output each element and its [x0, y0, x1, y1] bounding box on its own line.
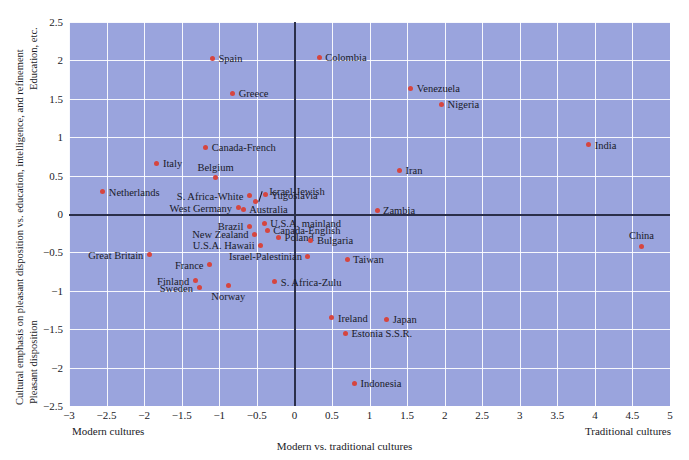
data-point-label: China	[629, 230, 654, 241]
data-point-label: S. Africa-White	[177, 190, 243, 201]
x-tick-label: 4.5	[626, 409, 640, 421]
data-point[interactable]	[241, 207, 246, 212]
data-point-label: S. Africa-Zulu	[281, 276, 342, 287]
x-axis-title: Modern vs. traditional cultures	[0, 440, 689, 452]
data-point[interactable]	[213, 175, 218, 180]
data-point[interactable]	[100, 189, 105, 194]
x-tick-label: 0	[292, 409, 298, 421]
x-tick-label: −2	[138, 409, 150, 421]
data-point[interactable]	[265, 228, 270, 233]
gridline-horizontal	[69, 22, 670, 23]
data-point-label: Canada-French	[212, 142, 276, 153]
data-point[interactable]	[329, 315, 334, 320]
x-tick-label: 3	[517, 409, 523, 421]
data-point[interactable]	[276, 235, 281, 240]
data-point[interactable]	[345, 257, 350, 262]
data-point[interactable]	[203, 145, 208, 150]
x-tick-label: 5	[667, 409, 673, 421]
data-point-label: Spain	[218, 53, 242, 64]
gridline-horizontal	[69, 368, 670, 369]
data-point-label: Indonesia	[360, 377, 401, 388]
data-point[interactable]	[197, 285, 202, 290]
data-point[interactable]	[639, 244, 644, 249]
data-point[interactable]	[384, 317, 389, 322]
y-tick-label: −2.5	[43, 400, 63, 412]
scatter-plot-figure: Cultural emphasis on pleasant dispositio…	[0, 0, 689, 460]
data-point-label: Italy	[163, 158, 182, 169]
data-point[interactable]	[252, 232, 257, 237]
data-point-label: Taiwan	[353, 254, 384, 265]
data-point-label: Venezuela	[417, 83, 460, 94]
data-point[interactable]	[226, 283, 231, 288]
data-point-label: Great Britain	[88, 249, 143, 260]
x-tick-label: −3	[63, 409, 75, 421]
data-point[interactable]	[272, 279, 277, 284]
data-point-label: Iran	[406, 165, 423, 176]
y-tick-label: −2	[51, 362, 63, 374]
x-axis-right-caption: Traditional cultures	[585, 425, 671, 437]
data-point-label: U.S.A. Hawaii	[193, 240, 255, 251]
data-point-label: Sweden	[160, 282, 193, 293]
x-tick-label: 3.5	[550, 409, 564, 421]
gridline-horizontal	[69, 137, 670, 138]
data-point[interactable]	[439, 102, 444, 107]
data-point[interactable]	[375, 208, 380, 213]
x-tick-label: 4	[592, 409, 598, 421]
data-point[interactable]	[236, 205, 241, 210]
data-point[interactable]	[305, 254, 310, 259]
data-point[interactable]	[586, 142, 591, 147]
y-axis-top-caption: Education, etc.	[28, 27, 39, 90]
data-point[interactable]	[210, 56, 215, 61]
data-point-label: Netherlands	[109, 186, 160, 197]
data-point[interactable]	[193, 278, 198, 283]
data-point-label: Bulgaria	[317, 235, 353, 246]
data-point[interactable]	[317, 55, 322, 60]
data-point-label: India	[595, 139, 617, 150]
data-point[interactable]	[352, 381, 357, 386]
y-tick-label: −0.5	[43, 246, 63, 258]
x-tick-label: 2	[442, 409, 448, 421]
data-point-label: Australia	[249, 204, 288, 215]
data-point[interactable]	[154, 161, 159, 166]
y-tick-label: 1	[58, 131, 64, 143]
data-point[interactable]	[147, 252, 152, 257]
y-tick-label: 0.5	[49, 170, 63, 182]
data-point-label: Israel-Palestinian	[229, 251, 302, 262]
data-point[interactable]	[343, 331, 348, 336]
axis-line-y-zero	[69, 214, 670, 216]
x-tick-label: 1	[367, 409, 373, 421]
data-point-label: Norway	[211, 291, 245, 302]
x-tick-label: 1.5	[400, 409, 414, 421]
x-tick-label: −1.5	[172, 409, 192, 421]
y-tick-label: 2	[58, 54, 64, 66]
data-point-label: Belgium	[197, 161, 233, 172]
data-point-label: Colombia	[325, 52, 366, 63]
gridline-horizontal	[69, 176, 670, 177]
y-tick-label: −1.5	[43, 323, 63, 335]
x-axis-left-caption: Modern cultures	[72, 425, 144, 437]
data-point[interactable]	[258, 243, 263, 248]
y-tick-label: −1	[51, 285, 63, 297]
data-point-label: West Germany	[170, 202, 232, 213]
x-tick-label: −1	[213, 409, 225, 421]
y-tick-label: 1.5	[49, 93, 63, 105]
y-axis-title: Cultural emphasis on pleasant dispositio…	[14, 49, 25, 405]
data-point-label: Yugosiavia	[271, 189, 318, 200]
data-point[interactable]	[262, 221, 267, 226]
data-point-label: Zambia	[383, 205, 415, 216]
gridline-horizontal	[69, 60, 670, 61]
x-tick-label: 0.5	[325, 409, 339, 421]
data-point-label: Ireland	[338, 312, 368, 323]
y-axis-bottom-caption: Pleasant disposition	[28, 320, 39, 404]
data-point[interactable]	[230, 91, 235, 96]
gridline-horizontal	[69, 99, 670, 100]
y-tick-label: 2.5	[49, 16, 63, 28]
data-point-label: Estonia S.S.R.	[351, 328, 412, 339]
x-tick-label: −0.5	[247, 409, 267, 421]
data-point[interactable]	[263, 192, 268, 197]
data-point[interactable]	[207, 262, 212, 267]
data-point[interactable]	[408, 86, 413, 91]
data-point[interactable]	[247, 193, 252, 198]
data-point[interactable]	[397, 168, 402, 173]
data-point-label: Japan	[393, 314, 417, 325]
